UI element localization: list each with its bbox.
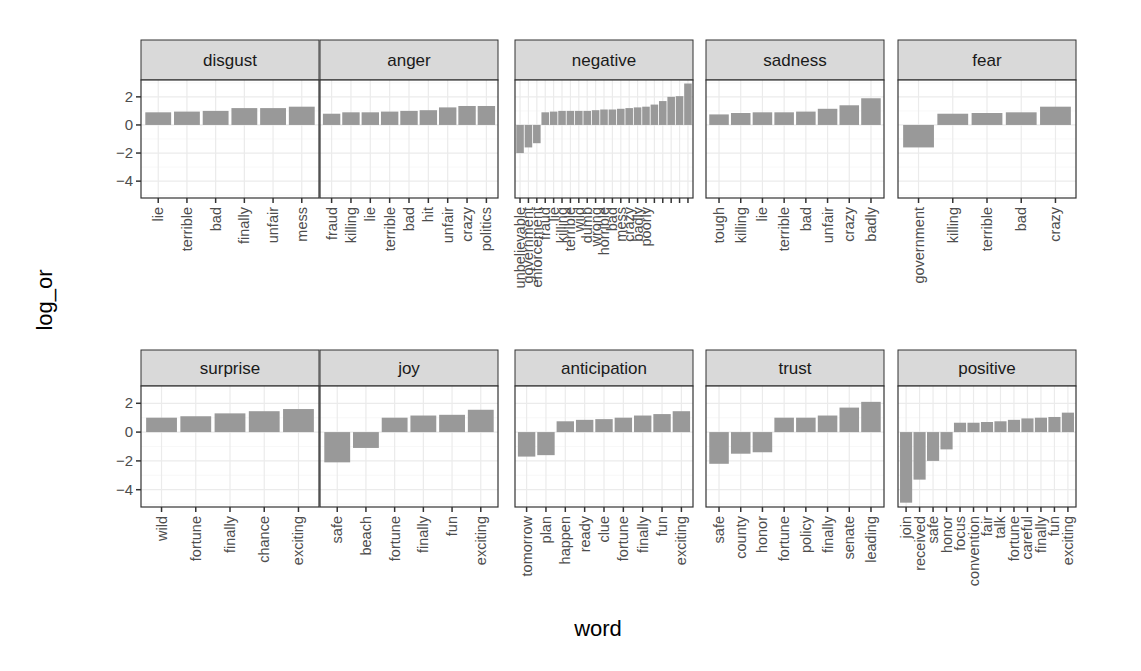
x-tick-label: bad	[1013, 207, 1029, 231]
x-tick-label: hit	[420, 207, 436, 222]
y-tick-label: −4	[116, 172, 133, 189]
x-tick-label: ready	[577, 515, 593, 552]
bar	[861, 402, 881, 432]
bar	[323, 114, 340, 125]
x-tick-label: happen	[557, 516, 573, 564]
bar	[709, 432, 729, 464]
bar	[145, 112, 171, 125]
bar	[215, 413, 246, 432]
facet-panel-sadness: sadnesstoughkillinglieterriblebadunfairc…	[706, 40, 884, 251]
bar	[1035, 418, 1047, 432]
bar	[583, 111, 591, 125]
facet-strip-label: anger	[387, 51, 431, 70]
x-tick-label: finally	[635, 515, 651, 553]
bar	[731, 113, 751, 125]
x-tick-label: exciting	[473, 516, 489, 565]
bar	[410, 416, 436, 433]
facet-panel-anger: angerfraudkillinglieterriblebadhitunfair…	[320, 40, 498, 251]
x-tick-label: crazy	[1047, 206, 1063, 241]
bar	[927, 432, 939, 461]
bar	[458, 106, 475, 125]
x-tick-label: lie	[362, 207, 378, 222]
bar	[709, 114, 729, 125]
bar	[558, 111, 566, 125]
facet-strip-label: joy	[397, 359, 420, 378]
bar	[525, 125, 533, 147]
x-tick-label: terrible	[382, 207, 398, 251]
x-tick-label: policy	[798, 515, 814, 553]
bar	[1062, 413, 1074, 432]
bar	[468, 410, 494, 432]
bar	[595, 419, 612, 432]
bar	[1021, 418, 1033, 432]
bar	[353, 432, 379, 448]
x-tick-label: wild	[154, 516, 170, 542]
bar	[840, 105, 860, 125]
bar	[537, 432, 554, 455]
x-tick-label: terrible	[776, 207, 792, 251]
bar	[550, 112, 558, 125]
bar	[260, 108, 286, 125]
facet-strip-label: negative	[572, 51, 636, 70]
facet-panel-negative: negativeunbelievablegovernmentenforcemen…	[512, 40, 693, 288]
x-tick-label: unfair	[440, 207, 456, 243]
x-axis-label: word	[573, 616, 622, 641]
bar	[342, 112, 359, 125]
x-tick-label: fun	[654, 516, 670, 536]
bar	[174, 112, 200, 125]
bar	[557, 421, 574, 432]
x-tick-label: exciting	[1060, 516, 1076, 565]
x-tick-label: tough	[711, 207, 727, 243]
x-tick-label: fortune	[776, 516, 792, 561]
bar	[625, 108, 633, 125]
facet-strip-label: disgust	[203, 51, 257, 70]
bar	[283, 409, 314, 432]
x-tick-label: killing	[945, 207, 961, 243]
x-tick-label: bad	[208, 207, 224, 231]
bar	[954, 423, 966, 432]
bar	[840, 408, 860, 432]
bar	[659, 101, 667, 125]
x-tick-label: clue	[596, 516, 612, 543]
facet-panel-fear: feargovernmentkillingterriblebadcrazy	[898, 40, 1076, 284]
bar	[634, 416, 651, 433]
x-tick-label: terrible	[979, 207, 995, 251]
facet-panel-positive: positivejoinreceivedsafehonorfocusconven…	[898, 350, 1076, 586]
x-tick-label: finally	[415, 515, 431, 553]
bar	[1008, 420, 1020, 432]
bar	[533, 125, 541, 143]
bar	[180, 416, 211, 432]
x-tick-label: beach	[358, 516, 374, 556]
y-tick-label: −4	[116, 481, 133, 498]
bar	[615, 418, 632, 432]
x-tick-label: lie	[150, 207, 166, 222]
x-tick-label: killing	[343, 207, 359, 243]
facet-strip-label: fear	[972, 51, 1002, 70]
x-tick-label: terrible	[179, 207, 195, 251]
bar	[609, 110, 617, 125]
x-tick-label: senate	[841, 516, 857, 560]
x-tick-label: county	[733, 515, 749, 558]
bar	[249, 411, 280, 432]
bar	[774, 418, 794, 432]
facet-strip-label: anticipation	[561, 359, 647, 378]
y-tick-label: 2	[125, 88, 133, 105]
bar	[753, 112, 773, 125]
bar	[937, 114, 968, 125]
x-tick-label: killing	[733, 207, 749, 243]
bar	[541, 112, 549, 125]
x-tick-label: finally	[222, 515, 238, 553]
bar	[576, 420, 593, 432]
x-tick-label: bad	[798, 207, 814, 231]
x-tick-label: mess	[294, 207, 310, 242]
x-tick-label: fraud	[324, 207, 340, 240]
bar	[774, 112, 794, 125]
facet-strip-label: trust	[778, 359, 811, 378]
bar	[231, 108, 257, 125]
bar	[382, 418, 408, 432]
bar	[146, 418, 177, 432]
x-tick-label: fun	[444, 516, 460, 536]
facet-panel-disgust: disgustlieterriblebadfinallyunfairmess20…	[116, 40, 319, 251]
facet-panel-anticipation: anticipationtomorrowplanhappenreadycluef…	[515, 350, 693, 576]
y-tick-label: −2	[116, 452, 133, 469]
